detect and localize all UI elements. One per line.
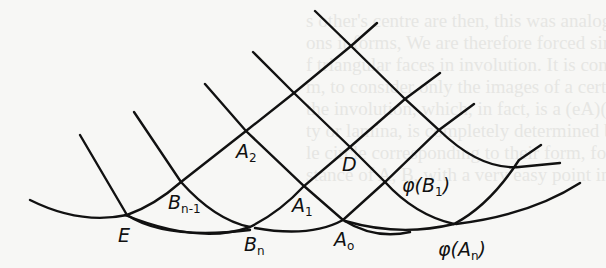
- rising-curve-5: [456, 183, 580, 224]
- label-subscript: o: [347, 239, 354, 253]
- rising-curve-3: [255, 104, 474, 232]
- label-tail: ): [479, 238, 486, 260]
- rising-curve-1: [30, 23, 377, 218]
- label-base: D: [342, 153, 357, 175]
- label-subscript: n: [257, 244, 265, 258]
- point-label-a2: A2: [236, 142, 257, 164]
- point-label-e: E: [118, 226, 130, 245]
- label-base: B: [244, 233, 257, 255]
- point-label-bn-1: Bn-1: [168, 193, 201, 215]
- falling-curve-2: [253, 52, 454, 224]
- point-label-phi-an: φ(An): [438, 240, 486, 262]
- label-subscript: n-1: [181, 202, 201, 216]
- label-subscript: n: [471, 249, 479, 263]
- point-label-a1: A1: [292, 196, 313, 218]
- curve-grid-figure: [0, 0, 606, 268]
- label-subscript: 2: [249, 151, 257, 165]
- label-subscript: 1: [305, 205, 313, 219]
- point-label-phi-b1: φ(B1): [402, 176, 450, 198]
- label-base: A: [334, 228, 347, 250]
- label-base: A: [292, 194, 305, 216]
- point-label-bn: Bn: [244, 235, 265, 257]
- label-base: φ(A: [438, 238, 471, 260]
- falling-curve-1: [315, 11, 560, 167]
- label-subscript: 1: [435, 185, 443, 199]
- label-tail: ): [443, 174, 450, 196]
- point-label-a0: Ao: [334, 230, 354, 252]
- label-base: B: [168, 191, 181, 213]
- point-label-d: D: [342, 155, 357, 174]
- label-base: φ(B: [402, 174, 435, 196]
- label-base: E: [118, 224, 130, 246]
- label-base: A: [236, 140, 249, 162]
